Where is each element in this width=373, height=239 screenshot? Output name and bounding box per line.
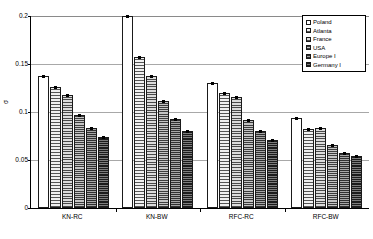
bar-marker-icon <box>126 15 129 18</box>
y-tick-mark-0 <box>28 208 31 209</box>
legend-swatch-icon <box>306 20 311 25</box>
bar-rfc-rc-europe-i <box>255 131 266 208</box>
legend-item-label: USA <box>313 45 325 51</box>
bar-kn-rc-poland <box>38 76 49 208</box>
bar-marker-icon <box>331 144 334 147</box>
x-tick-label-kn-bw: KN-BW <box>115 214 200 221</box>
bar-marker-icon <box>307 128 310 131</box>
bar-rfc-bw-germany-i <box>351 156 362 208</box>
x-tick-label-rfc-bw: RFC-BW <box>284 214 369 221</box>
bar-marker-icon <box>54 86 57 89</box>
x-tick-label-rfc-rc: RFC-RC <box>199 214 284 221</box>
bar-marker-icon <box>42 75 45 78</box>
bar-group-kn-rc <box>31 16 116 208</box>
bar-marker-icon <box>138 56 141 59</box>
bar-marker-icon <box>78 114 81 117</box>
bar-marker-icon <box>174 118 177 121</box>
bar-marker-icon <box>102 136 105 139</box>
y-tick-label-0.1: 0.1 <box>2 109 28 116</box>
y-tick-label-0: 0 <box>2 205 28 212</box>
bar-marker-icon <box>319 127 322 130</box>
bar-kn-rc-europe-i <box>86 128 97 208</box>
bar-rfc-rc-atlanta <box>219 93 230 208</box>
bar-marker-icon <box>90 127 93 130</box>
bar-rfc-bw-usa <box>327 145 338 208</box>
bar-chart: σ 0.2 0.15 0.1 0.05 0 KN-RC KN-BW RFC-RC… <box>0 0 373 239</box>
bar-marker-icon <box>343 152 346 155</box>
legend-swatch-icon <box>306 37 311 42</box>
bar-kn-bw-france <box>146 76 157 208</box>
legend-item-usa: USA <box>306 44 363 53</box>
bar-kn-rc-atlanta <box>50 87 61 208</box>
bar-rfc-bw-atlanta <box>303 129 314 208</box>
bar-kn-rc-usa <box>74 115 85 208</box>
bar-marker-icon <box>162 100 165 103</box>
x-divider-3 <box>285 208 286 212</box>
bar-kn-bw-usa <box>158 101 169 208</box>
legend-item-france: France <box>306 35 363 44</box>
bar-marker-icon <box>211 82 214 85</box>
legend-swatch-icon <box>306 28 311 33</box>
bar-kn-rc-france <box>62 95 73 208</box>
legend-item-poland: Poland <box>306 18 363 27</box>
bar-marker-icon <box>150 75 153 78</box>
x-tick-label-kn-rc: KN-RC <box>30 214 115 221</box>
legend-item-europe-i: Europe I <box>306 52 363 61</box>
bar-marker-icon <box>295 117 298 120</box>
bar-kn-bw-atlanta <box>134 57 145 208</box>
legend-item-label: France <box>313 36 332 42</box>
legend-item-atlanta: Atlanta <box>306 27 363 36</box>
legend-item-label: Germany I <box>313 62 341 68</box>
bar-rfc-rc-usa <box>243 120 254 208</box>
y-tick-label-0.2: 0.2 <box>2 13 28 20</box>
bar-rfc-bw-france <box>315 128 326 208</box>
legend: PolandAtlantaFranceUSAEurope IGermany I <box>302 15 366 72</box>
y-tick-label-0.15: 0.15 <box>2 61 28 68</box>
y-tick-label-0.05: 0.05 <box>2 157 28 164</box>
bar-marker-icon <box>186 130 189 133</box>
bar-rfc-rc-germany-i <box>267 140 278 208</box>
bar-kn-bw-poland <box>122 16 133 208</box>
legend-swatch-icon <box>306 45 311 50</box>
bar-rfc-rc-poland <box>207 83 218 208</box>
bar-group-rfc-rc <box>200 16 285 208</box>
bar-group-kn-bw <box>116 16 201 208</box>
bar-rfc-rc-france <box>231 97 242 208</box>
bar-marker-icon <box>235 96 238 99</box>
bar-rfc-bw-europe-i <box>339 153 350 208</box>
legend-item-germany-i: Germany I <box>306 61 363 70</box>
legend-item-label: Poland <box>313 19 332 25</box>
x-divider-2 <box>200 208 201 212</box>
legend-item-label: Europe I <box>313 53 336 59</box>
bar-marker-icon <box>355 155 358 158</box>
x-divider-1 <box>116 208 117 212</box>
legend-swatch-icon <box>306 62 311 67</box>
bar-marker-icon <box>259 130 262 133</box>
bar-kn-bw-germany-i <box>182 131 193 208</box>
bar-marker-icon <box>223 92 226 95</box>
legend-swatch-icon <box>306 54 311 59</box>
bar-marker-icon <box>271 139 274 142</box>
y-axis-title: σ <box>2 100 9 104</box>
bar-kn-rc-germany-i <box>98 137 109 208</box>
bar-rfc-bw-poland <box>291 118 302 208</box>
bar-marker-icon <box>66 94 69 97</box>
bar-marker-icon <box>247 119 250 122</box>
bar-kn-bw-europe-i <box>170 119 181 208</box>
legend-item-label: Atlanta <box>313 28 332 34</box>
